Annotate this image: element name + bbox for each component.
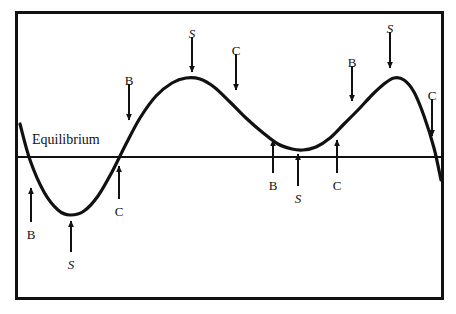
annotation-label-b-a7: B bbox=[269, 179, 278, 192]
annotation-label-b-a1: B bbox=[27, 228, 36, 241]
annotation-label-s-a2: S bbox=[68, 258, 75, 271]
annotation-label-s-a5: S bbox=[189, 27, 196, 40]
annotation-label-c-a6: C bbox=[232, 44, 241, 57]
equilibrium-label: Equilibrium bbox=[32, 133, 100, 147]
annotation-label-b-a10: B bbox=[348, 56, 357, 69]
annotation-label-c-a9: C bbox=[333, 179, 342, 192]
figure-page: Equilibrium BSCBSCBSCBSC bbox=[0, 0, 456, 314]
annotation-label-s-a8: S bbox=[295, 192, 302, 205]
annotation-label-c-a3: C bbox=[115, 205, 124, 218]
annotation-label-s-a11: S bbox=[387, 22, 394, 35]
annotation-label-c-a12: C bbox=[428, 89, 437, 102]
annotation-label-b-a4: B bbox=[125, 74, 134, 87]
